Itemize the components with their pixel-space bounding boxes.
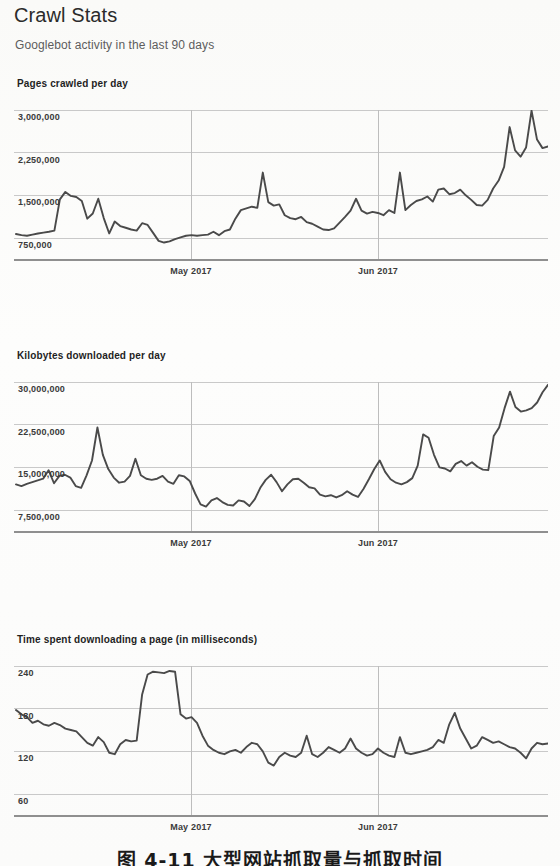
chart-pages-crawled-per-day: Pages crawled per day 3,000,0002,250,000… — [0, 78, 560, 278]
chart-title: Pages crawled per day — [17, 78, 128, 89]
x-axis-tick-label: May 2017 — [170, 266, 212, 276]
y-axis-tick-label: 7,500,000 — [18, 512, 60, 522]
x-axis-tick-label: Jun 2017 — [358, 822, 398, 832]
y-axis-tick-label: 30,000,000 — [18, 384, 65, 394]
y-axis-tick-label: 2,250,000 — [18, 155, 60, 165]
x-axis-tick-label: Jun 2017 — [358, 538, 398, 548]
x-axis-labels: May 2017Jun 2017 — [0, 266, 560, 280]
chart-kilobytes-downloaded-per-day: Kilobytes downloaded per day 30,000,0002… — [0, 350, 560, 550]
x-axis-tick-label: May 2017 — [170, 538, 212, 548]
y-axis-tick-label: 15,000,000 — [18, 469, 65, 479]
x-axis-labels: May 2017Jun 2017 — [0, 538, 560, 552]
crawl-stats-report: Crawl Stats Googlebot activity in the la… — [0, 0, 560, 866]
y-axis-tick-label: 750,000 — [18, 240, 52, 250]
plot-area — [14, 382, 548, 534]
x-axis-tick-label: Jun 2017 — [358, 266, 398, 276]
y-axis-tick-label: 180 — [18, 711, 34, 721]
page-subtitle: Googlebot activity in the last 90 days — [15, 38, 214, 52]
chart-title: Kilobytes downloaded per day — [17, 350, 166, 361]
y-axis-tick-label: 22,500,000 — [18, 427, 65, 437]
figure-caption: 图 4-11 大型网站抓取量与抓取时间 — [0, 845, 560, 866]
y-axis-tick-label: 60 — [18, 796, 28, 806]
y-axis-tick-label: 240 — [18, 668, 34, 678]
plot-area — [14, 666, 548, 818]
page-title: Crawl Stats — [14, 4, 117, 27]
x-axis-labels: May 2017Jun 2017 — [0, 822, 560, 836]
chart-time-spent-downloading-a-page: Time spent downloading a page (in millis… — [0, 634, 560, 834]
chart-title: Time spent downloading a page (in millis… — [17, 634, 257, 645]
y-axis-tick-label: 1,500,000 — [18, 197, 60, 207]
y-axis-tick-label: 3,000,000 — [18, 112, 60, 122]
y-axis-tick-label: 120 — [18, 753, 34, 763]
x-axis-tick-label: May 2017 — [170, 822, 212, 832]
plot-area — [14, 110, 548, 262]
